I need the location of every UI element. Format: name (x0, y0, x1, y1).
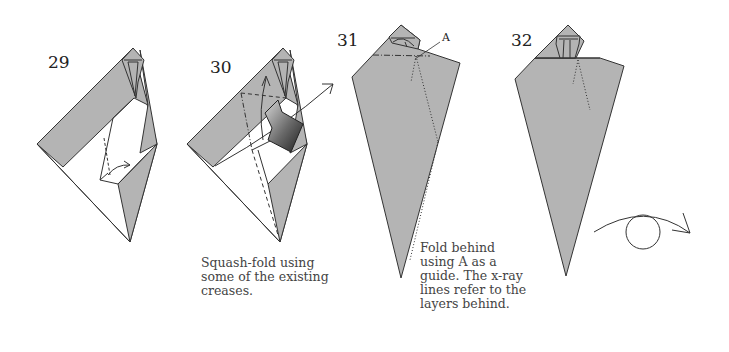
caption-line: guide. The x-ray (420, 269, 526, 283)
caption-line: lines refer to the (420, 283, 526, 297)
step-number-32: 32 (511, 30, 533, 50)
caption-line: creases. (201, 284, 329, 298)
reference-label-a: A (442, 31, 450, 44)
step-29-figure (37, 48, 157, 242)
caption-line: Squash-fold using (201, 256, 329, 270)
step-32-figure (515, 25, 624, 276)
caption-line: Fold behind (420, 241, 526, 255)
caption-line: layers behind. (420, 297, 526, 311)
step-number-29: 29 (48, 52, 70, 72)
turn-over-arrow-icon (594, 213, 690, 249)
step-30-caption: Squash-fold using some of the existing c… (201, 256, 329, 298)
step-31-caption: Fold behind using A as a guide. The x-ra… (420, 241, 526, 311)
step-number-30: 30 (210, 57, 232, 77)
caption-line: some of the existing (201, 270, 329, 284)
origami-diagram (0, 0, 729, 352)
step-number-31: 31 (337, 30, 359, 50)
caption-line: using A as a (420, 255, 526, 269)
